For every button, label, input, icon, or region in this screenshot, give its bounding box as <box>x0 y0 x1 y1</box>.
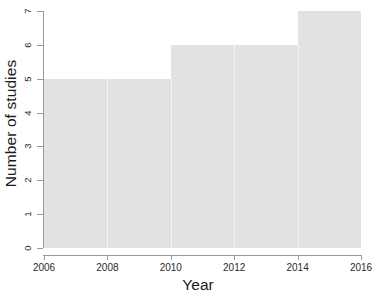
y-axis-tick-label-text: 7 <box>23 4 33 18</box>
y-axis-tick-label-text: 6 <box>23 38 33 52</box>
bar <box>171 45 234 248</box>
y-axis-tick-label-text: 0 <box>23 241 33 255</box>
y-axis-tick-label: 6 <box>21 40 35 50</box>
y-axis-tick-label: 2 <box>21 175 35 185</box>
bar-separator <box>298 45 299 248</box>
bar-separator <box>171 79 172 248</box>
bar-separator <box>234 45 235 248</box>
x-axis-tick-mark <box>171 255 172 260</box>
x-axis-tick-label: 2010 <box>155 262 187 274</box>
y-axis-tick-mark <box>37 180 43 181</box>
x-axis-tick-label: 2016 <box>345 262 377 274</box>
x-axis-tick-label: 2012 <box>218 262 250 274</box>
bar <box>44 79 107 248</box>
x-axis-tick-label: 2014 <box>282 262 314 274</box>
bar <box>298 11 361 248</box>
plot-area <box>44 11 361 248</box>
x-axis-line <box>43 255 361 256</box>
x-axis-tick-mark <box>107 255 108 260</box>
y-axis-tick-label: 1 <box>21 209 35 219</box>
y-axis-title: Number of studies <box>0 0 22 247</box>
y-axis-tick-label: 0 <box>21 243 35 253</box>
x-axis-tick-label: 2006 <box>28 262 60 274</box>
bar <box>234 45 297 248</box>
y-axis-tick-label: 7 <box>21 6 35 16</box>
bar-separator <box>107 79 108 248</box>
y-axis-tick-label: 5 <box>21 74 35 84</box>
bar <box>107 79 170 248</box>
y-axis-tick-mark <box>37 79 43 80</box>
x-axis-tick-label: 2008 <box>91 262 123 274</box>
y-axis-tick-label-text: 1 <box>23 207 33 221</box>
y-axis-tick-mark <box>37 113 43 114</box>
y-axis-tick-label: 3 <box>21 141 35 151</box>
y-axis-tick-label-text: 2 <box>23 173 33 187</box>
y-axis-tick-label-text: 3 <box>23 139 33 153</box>
y-axis-tick-label-text: 5 <box>23 72 33 86</box>
x-axis-tick-mark <box>298 255 299 260</box>
y-axis-tick-label: 4 <box>21 108 35 118</box>
y-axis-tick-mark <box>37 11 43 12</box>
y-axis-tick-mark <box>37 45 43 46</box>
y-axis-tick-label-text: 4 <box>23 106 33 120</box>
x-axis-tick-mark <box>44 255 45 260</box>
y-axis-tick-mark <box>37 214 43 215</box>
x-axis-title: Year <box>43 276 353 294</box>
x-axis-tick-mark <box>361 255 362 260</box>
y-axis-tick-mark <box>37 248 43 249</box>
y-axis-tick-mark <box>37 146 43 147</box>
x-axis-tick-mark <box>234 255 235 260</box>
